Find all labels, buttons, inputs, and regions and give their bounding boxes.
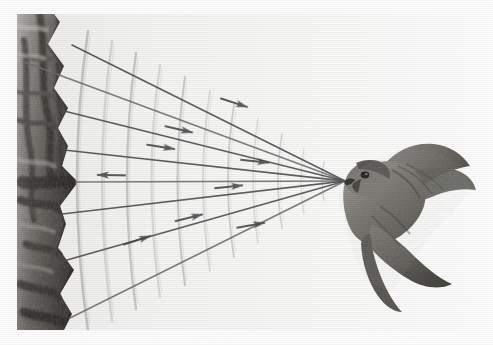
scene-canvas [0,0,493,345]
illustration-figure: Peregrine falcon stooping toward a cliff… [0,0,493,345]
scan-grain-overlay [0,0,493,345]
